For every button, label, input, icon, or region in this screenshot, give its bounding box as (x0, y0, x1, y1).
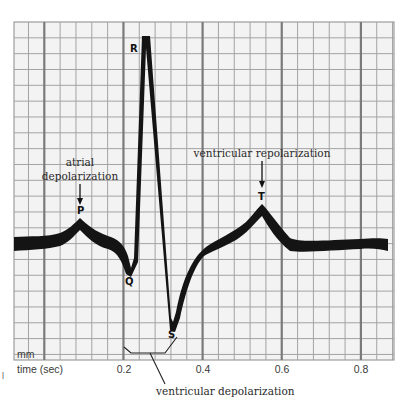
atrial-label-line1: atrial (66, 156, 95, 168)
ecg-diagram: R P Q S T atrial depolarization ventricu… (0, 0, 410, 403)
x-tick-0-8: 0.8 (354, 363, 369, 375)
ventricular-repolarization-label: ventricular repolarization (193, 147, 331, 159)
x-tick-0-6: 0.6 (275, 363, 290, 375)
stray-mark: l (2, 371, 4, 381)
ventricular-depolarization-label: ventricular depolarization (155, 385, 295, 397)
x-tick-0-2: 0.2 (117, 363, 132, 375)
wave-label-t: T (258, 191, 265, 202)
atrial-label-line2: depolarization (42, 170, 119, 182)
wave-label-s: S (168, 329, 175, 340)
x-tick-0-4: 0.4 (196, 363, 211, 375)
wave-label-p: P (77, 205, 84, 216)
x-axis-label: time (sec) (17, 363, 63, 375)
unit-label-mm: mm (17, 348, 35, 360)
wave-label-q: Q (125, 276, 134, 287)
wave-label-r: R (130, 43, 138, 54)
grid-paper (14, 22, 394, 360)
